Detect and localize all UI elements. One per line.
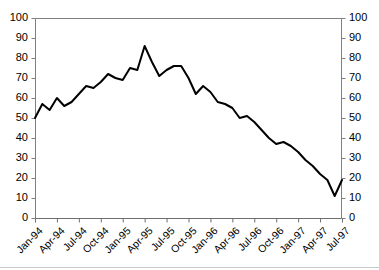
y-axis-left-label: 40 — [2, 132, 28, 143]
chart-container: 0102030405060708090100 01020304050607080… — [0, 0, 379, 270]
data-line-series-1 — [35, 46, 342, 196]
y-axis-right-label: 50 — [349, 112, 375, 123]
y-axis-left-label: 30 — [2, 152, 28, 163]
y-axis-left-label: 0 — [2, 212, 28, 223]
y-axis-left-label: 10 — [2, 192, 28, 203]
y-axis-right-label: 30 — [349, 152, 375, 163]
y-axis-left-label: 100 — [2, 12, 28, 23]
y-axis-left-label: 50 — [2, 112, 28, 123]
y-axis-right-label: 10 — [349, 192, 375, 203]
y-axis-ticks — [32, 19, 346, 219]
y-axis-right-label: 70 — [349, 72, 375, 83]
y-axis-left-label: 80 — [2, 52, 28, 63]
plot-frame — [36, 19, 342, 219]
bottom-divider — [0, 267, 379, 268]
y-axis-right-label: 90 — [349, 32, 375, 43]
y-axis-right-label: 60 — [349, 92, 375, 103]
y-axis-right-label: 40 — [349, 132, 375, 143]
y-axis-right-label: 100 — [349, 12, 375, 23]
y-axis-right-label: 80 — [349, 52, 375, 63]
y-axis-right-label: 20 — [349, 172, 375, 183]
x-axis-ticks — [36, 219, 343, 223]
y-axis-left-label: 90 — [2, 32, 28, 43]
y-axis-left-label: 20 — [2, 172, 28, 183]
y-axis-left-label: 60 — [2, 92, 28, 103]
y-axis-right-label: 0 — [349, 212, 375, 223]
y-axis-left-label: 70 — [2, 72, 28, 83]
